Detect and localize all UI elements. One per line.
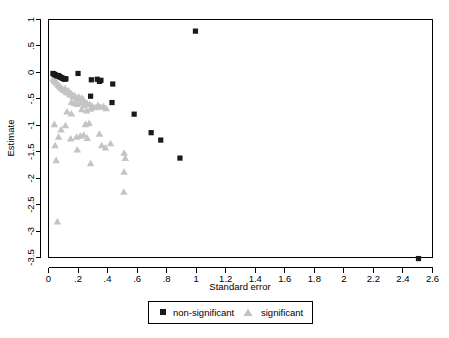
data-point-non-significant [109, 100, 114, 105]
legend-label-significant: significant [261, 307, 304, 318]
data-point-non-significant [98, 78, 103, 83]
scatter-plot-canvas: 0.2.4.6.811.21.41.61.822.22.42.6 1.50-.5… [0, 0, 449, 338]
data-point-significant [51, 121, 59, 128]
data-point-non-significant [132, 112, 137, 117]
x-tick-label: .4 [104, 273, 112, 284]
data-point-non-significant [88, 94, 93, 99]
data-point-significant [120, 188, 128, 195]
data-point-significant [87, 160, 95, 167]
data-point-non-significant [149, 130, 154, 135]
x-tick-label: .6 [133, 273, 141, 284]
x-tick-label: 1.6 [278, 273, 291, 284]
data-point-non-significant [75, 71, 80, 76]
x-tick-label: .2 [74, 273, 82, 284]
y-tick-label: 1 [25, 17, 36, 22]
data-point-significant [55, 133, 63, 140]
data-point-significant [96, 130, 104, 137]
data-point-non-significant [89, 77, 94, 82]
data-point-non-significant [177, 155, 182, 160]
legend-label-non-significant: non-significant [173, 307, 235, 318]
data-point-non-significant [416, 256, 421, 261]
x-tick-label: 2.6 [426, 273, 439, 284]
y-tick-label: 0 [25, 70, 36, 75]
x-tick-label: 2.4 [396, 273, 409, 284]
data-point-significant [120, 149, 128, 156]
data-point-non-significant [193, 29, 198, 34]
data-point-non-significant [110, 81, 115, 86]
y-tick-label: .5 [25, 42, 36, 50]
funnel-plot-figure: 0.2.4.6.811.21.41.61.822.22.42.6 1.50-.5… [0, 0, 449, 338]
data-point-significant [74, 146, 82, 153]
data-point-significant [120, 168, 128, 175]
y-tick-label: -1.5 [25, 144, 36, 160]
x-tick-label: .8 [163, 273, 171, 284]
x-tick-label: 1.8 [308, 273, 321, 284]
data-point-significant [52, 157, 60, 164]
y-axis-title: Estimate [5, 120, 16, 157]
y-tick-label: -3 [25, 227, 36, 235]
data-point-significant [51, 142, 59, 149]
y-axis-ticks: 1.50-.5-1-1.5-2-2.5-3-3.5 [25, 17, 41, 266]
data-point-significant [67, 135, 75, 142]
data-point-significant [54, 218, 62, 225]
x-tick-label: 2.2 [367, 273, 380, 284]
y-tick-label: -2 [25, 174, 36, 182]
x-tick-label: 0 [46, 273, 51, 284]
x-axis-title: Standard error [209, 281, 270, 292]
y-tick-label: -1 [25, 121, 36, 129]
data-point-significant [107, 140, 115, 147]
non-significant-points-group [50, 29, 421, 262]
plot-frame [49, 20, 433, 258]
data-point-non-significant [158, 137, 163, 142]
y-tick-label: -2.5 [25, 196, 36, 212]
data-point-non-significant [63, 76, 68, 81]
y-tick-label: -.5 [25, 93, 36, 104]
y-tick-label: -3.5 [25, 249, 36, 265]
data-point-significant [62, 122, 70, 129]
x-tick-label: 2 [341, 273, 346, 284]
x-tick-label: 1 [194, 273, 199, 284]
legend-square-icon [160, 309, 166, 315]
